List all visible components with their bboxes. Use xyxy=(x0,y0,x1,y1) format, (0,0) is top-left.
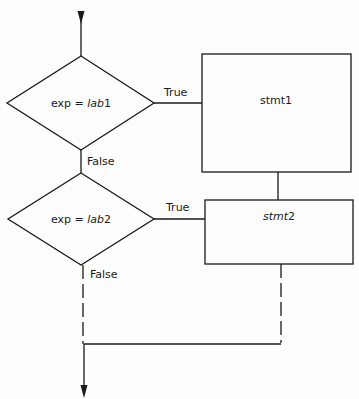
statement-label-1: stmt1 xyxy=(260,94,292,107)
flowchart: exp = lab1 exp = lab2 True True False Fa… xyxy=(0,0,359,399)
true-label-1: True xyxy=(163,86,188,99)
false-label-1: False xyxy=(87,155,115,168)
statement-box-1 xyxy=(202,54,351,172)
decision-label-2: exp = lab2 xyxy=(51,213,111,226)
decision-label-1: exp = lab1 xyxy=(51,97,111,110)
statement-label-2: stmt2 xyxy=(263,210,295,223)
true-label-2: True xyxy=(165,201,190,214)
false-label-2: False xyxy=(90,268,118,281)
entry-arrow-icon xyxy=(78,11,85,24)
exit-arrow-icon xyxy=(81,385,88,398)
